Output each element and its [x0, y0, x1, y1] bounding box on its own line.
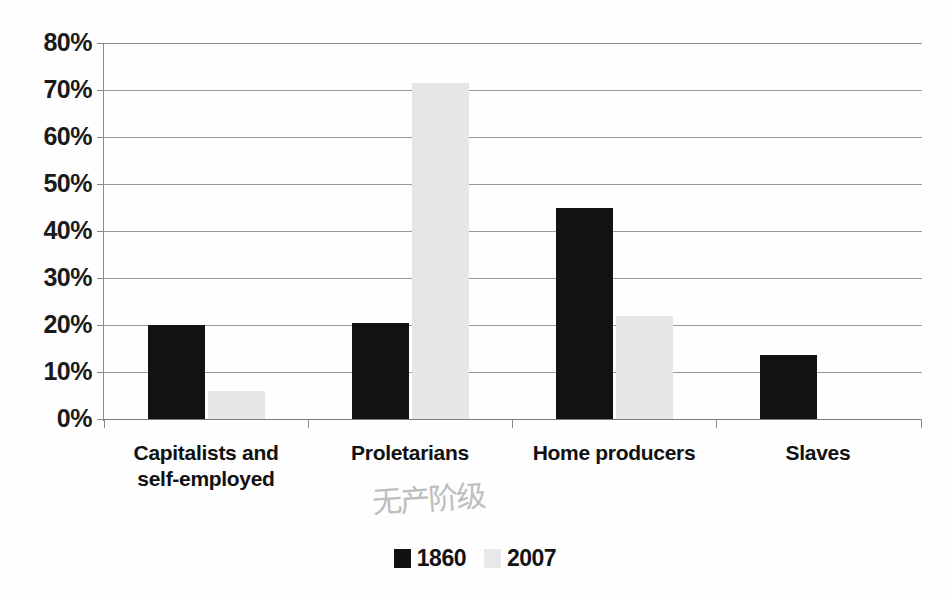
y-tick-label: 60% [8, 124, 92, 149]
x-tick-mark [716, 419, 717, 428]
legend-swatch-icon [394, 549, 411, 568]
legend-label: 1860 [417, 545, 466, 572]
category-label-home-producers: Home producers [512, 440, 716, 466]
bar-chart: 80% 70% 60% 50% 40% 30% 20% 10% 0% [0, 0, 950, 597]
y-tick-label: 20% [8, 312, 92, 337]
x-axis-tick-marks [104, 419, 922, 429]
y-tick-label: 70% [8, 77, 92, 102]
category-label-proletarians: Proletarians [308, 440, 512, 466]
x-tick-mark [104, 419, 105, 428]
gridline-70 [104, 90, 922, 91]
bar-2007-home-producers [616, 316, 673, 419]
gridline-20 [104, 325, 922, 326]
category-label-slaves: Slaves [716, 440, 920, 466]
legend-item-2007: 2007 [484, 545, 556, 572]
bar-1860-home-producers [556, 208, 613, 420]
y-tick-label: 50% [8, 171, 92, 196]
bar-1860-slaves [760, 355, 817, 419]
chart-legend: 1860 2007 [0, 545, 950, 572]
y-tick-label: 0% [8, 406, 92, 431]
legend-label: 2007 [507, 545, 556, 572]
bar-2007-proletarians [412, 83, 469, 419]
handwritten-annotation: 无产阶级 [371, 470, 503, 519]
category-label-capitalists: Capitalists and self-employed [104, 440, 308, 492]
gridline-50 [104, 184, 922, 185]
category-label-line2: self-employed [104, 466, 308, 492]
gridline-60 [104, 137, 922, 138]
category-label-line1: Proletarians [351, 441, 469, 464]
bar-1860-proletarians [352, 323, 409, 419]
x-tick-mark [921, 419, 922, 428]
gridline-80 [104, 43, 922, 44]
bar-2007-capitalists [208, 391, 265, 419]
category-label-line1: Slaves [786, 441, 851, 464]
plot-area [104, 43, 922, 419]
legend-swatch-icon [484, 549, 501, 568]
y-axis-tick-labels: 80% 70% 60% 50% 40% 30% 20% 10% 0% [0, 43, 92, 419]
gridline-30 [104, 278, 922, 279]
y-tick-label: 80% [8, 30, 92, 55]
legend-item-1860: 1860 [394, 545, 466, 572]
y-tick-label: 10% [8, 359, 92, 384]
x-tick-mark [308, 419, 309, 428]
category-label-line1: Home producers [533, 441, 696, 464]
x-tick-mark [512, 419, 513, 428]
y-tick-label: 30% [8, 265, 92, 290]
x-axis-category-labels: Capitalists and self-employed Proletaria… [104, 440, 922, 500]
bar-1860-capitalists [148, 325, 205, 419]
gridline-40 [104, 231, 922, 232]
y-tick-label: 40% [8, 218, 92, 243]
category-label-line1: Capitalists and [134, 441, 279, 464]
